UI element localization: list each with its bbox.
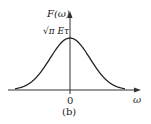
- y-axis-label: F(ω): [47, 9, 70, 19]
- peak-value-label: √π Eτ: [43, 27, 69, 36]
- x-axis-label: ω: [133, 95, 141, 105]
- x-axis-arrow-icon: [134, 88, 141, 93]
- figure-caption: (b): [62, 107, 76, 117]
- origin-tick-label: 0: [67, 96, 73, 106]
